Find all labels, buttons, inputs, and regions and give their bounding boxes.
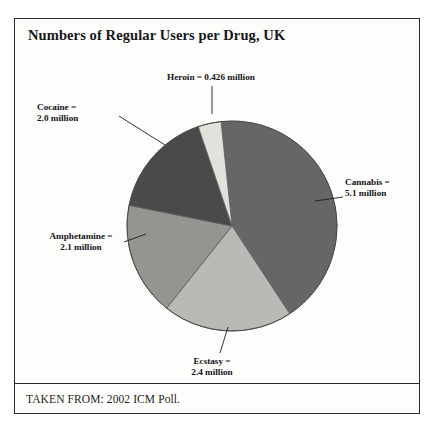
slice-label-amphetamine: Amphetamine = 2.1 million <box>21 231 141 253</box>
chart-figure: Numbers of Regular Users per Drug, UK He… <box>14 18 420 414</box>
slice-label-ecstasy: Ecstasy = 2.4 million <box>157 356 267 378</box>
slice-label-heroin-line1: Heroin = 0.426 million <box>131 72 291 83</box>
slice-label-cocaine-line1: Cocaine = <box>37 102 137 113</box>
slice-label-heroin: Heroin = 0.426 million <box>131 72 291 83</box>
footer-divider <box>15 383 419 384</box>
pie-chart-plot-area: Heroin = 0.426 million Cocaine = 2.0 mil… <box>15 19 419 413</box>
slice-label-amphetamine-line2: 2.1 million <box>21 242 141 253</box>
pie-slice-group <box>127 121 337 331</box>
slice-label-cannabis: Cannabis = 5.1 million <box>345 177 419 199</box>
slice-label-amphetamine-line1: Amphetamine = <box>21 231 141 242</box>
slice-label-ecstasy-line2: 2.4 million <box>157 367 267 378</box>
slice-label-ecstasy-line1: Ecstasy = <box>157 356 267 367</box>
slice-label-cannabis-line1: Cannabis = <box>345 177 419 188</box>
slice-label-cocaine-line2: 2.0 million <box>37 113 137 124</box>
slice-label-cocaine: Cocaine = 2.0 million <box>37 102 137 124</box>
slice-label-cannabis-line2: 5.1 million <box>345 188 419 199</box>
chart-source-note: TAKEN FROM: 2002 ICM Poll. <box>26 393 180 405</box>
